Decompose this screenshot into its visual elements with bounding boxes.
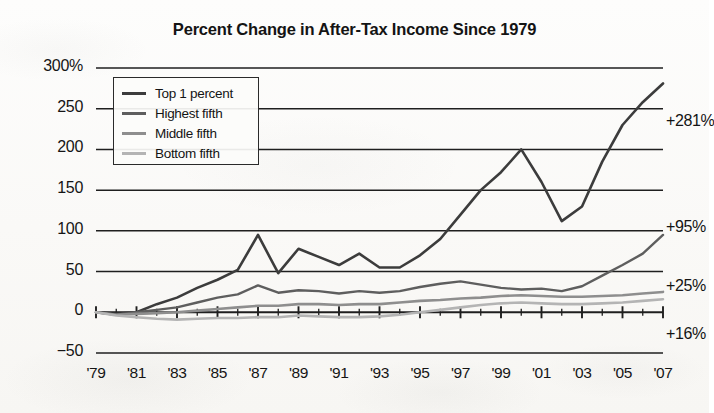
x-axis-tick-label: '07 [638, 364, 688, 382]
legend-swatch-icon [122, 132, 146, 135]
series-end-annotation: +95% [666, 218, 706, 236]
legend-item[interactable]: Middle fifth [122, 123, 217, 143]
legend-item[interactable]: Highest fifth [122, 103, 222, 123]
series-end-annotation: +16% [666, 325, 706, 343]
legend-swatch-icon [122, 112, 146, 115]
y-axis-tick-label: 200 [3, 138, 83, 156]
legend-item-label: Highest fifth [155, 106, 222, 121]
legend-swatch-icon [122, 152, 146, 155]
y-axis-tick-label: −50 [3, 342, 83, 360]
legend-swatch-icon [122, 92, 146, 95]
series-end-annotation: +281% [666, 112, 714, 130]
chart-legend: Top 1 percentHighest fifthMiddle fifthBo… [113, 77, 259, 165]
legend-item[interactable]: Bottom fifth [122, 143, 220, 163]
y-axis-tick-label: 300% [3, 57, 83, 75]
y-axis-tick-label: 50 [3, 261, 83, 279]
legend-item-label: Bottom fifth [155, 146, 220, 161]
legend-item[interactable]: Top 1 percent [122, 83, 233, 103]
y-axis-tick-label: 100 [3, 220, 83, 238]
y-axis-tick-label: 0 [3, 301, 83, 319]
legend-item-label: Middle fifth [155, 126, 217, 141]
series-line [96, 235, 663, 315]
legend-item-label: Top 1 percent [155, 86, 233, 101]
y-axis-tick-label: 150 [3, 179, 83, 197]
series-end-annotation: +25% [666, 277, 706, 295]
y-axis-tick-label: 250 [3, 98, 83, 116]
